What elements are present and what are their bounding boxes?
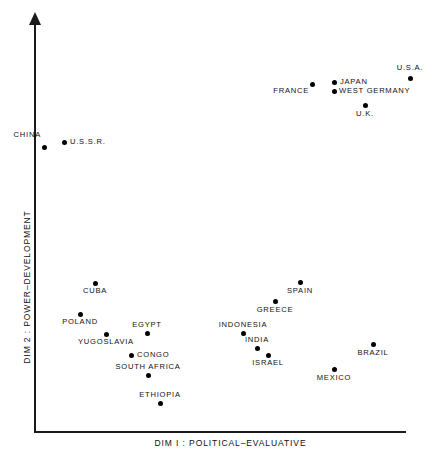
data-point-label: INDIA (245, 336, 269, 344)
data-point-marker (78, 312, 83, 317)
data-point-marker (310, 82, 315, 87)
data-point-marker (42, 145, 47, 150)
y-axis-title: DIM 2 : POWER–DEVELOPMENT (22, 187, 32, 387)
data-point-marker (298, 280, 303, 285)
data-point-label: BRAZIL (357, 349, 388, 357)
x-axis-title: DIM I : POLITICAL–EVALUATIVE (0, 438, 437, 448)
data-point-label: WEST GERMANY (339, 87, 410, 95)
x-axis-line (34, 431, 406, 433)
data-point-marker (129, 353, 134, 358)
data-point-label: U.K. (356, 110, 374, 118)
y-axis-line (34, 22, 36, 433)
data-point-marker (363, 103, 368, 108)
data-point-label: INDONESIA (219, 321, 268, 329)
data-point-label: SOUTH AFRICA (115, 363, 180, 371)
data-point-marker (145, 331, 150, 336)
scatter-plot-figure: DIM 2 : POWER–DEVELOPMENT DIM I : POLITI… (0, 0, 437, 459)
data-point-label: YUGOSLAVIA (78, 338, 134, 346)
data-point-marker (266, 353, 271, 358)
data-point-marker (371, 342, 376, 347)
data-point-label: ETHIOPIA (139, 391, 180, 399)
data-point-label: U.S.S.R. (70, 138, 106, 146)
data-point-label: CONGO (137, 351, 169, 359)
data-point-marker (332, 80, 337, 85)
data-point-label: FRANCE (273, 87, 309, 95)
data-point-marker (255, 346, 260, 351)
data-point-marker (332, 367, 337, 372)
data-point-label: CHINA (14, 131, 41, 139)
data-point-label: POLAND (62, 318, 98, 326)
data-point-marker (146, 373, 151, 378)
data-point-marker (104, 332, 109, 337)
data-point-label: CUBA (83, 287, 107, 295)
data-point-marker (158, 401, 163, 406)
data-point-marker (332, 89, 337, 94)
data-point-marker (62, 140, 67, 145)
data-point-label: GREECE (257, 306, 294, 314)
data-point-label: EGYPT (132, 321, 162, 329)
data-point-label: ISRAEL (252, 359, 284, 367)
data-point-marker (93, 281, 98, 286)
data-point-label: JAPAN (340, 78, 368, 86)
data-point-label: MEXICO (317, 374, 351, 382)
data-point-marker (408, 76, 413, 81)
data-point-label: U.S.A. (397, 64, 423, 72)
data-point-label: SPAIN (287, 287, 313, 295)
data-point-marker (273, 299, 278, 304)
